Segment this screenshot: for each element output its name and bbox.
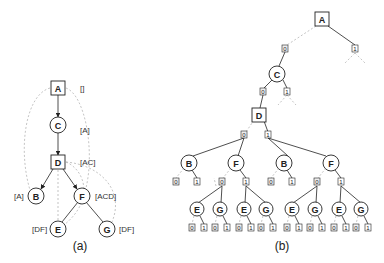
node-c: C <box>50 117 66 133</box>
annotation-f: [ACD] <box>95 192 116 201</box>
bit-1-d: 1 <box>265 131 271 138</box>
svg-text:D: D <box>55 158 62 168</box>
node-b: B <box>28 188 44 204</box>
tree-node-c: C <box>269 66 285 82</box>
bit-1-f2: 1 <box>338 178 344 185</box>
svg-text:F: F <box>79 192 85 202</box>
dashed-edges <box>176 26 365 178</box>
annotation-g: [DF] <box>119 225 134 234</box>
svg-text:G: G <box>262 205 269 215</box>
solid-edges <box>192 26 368 224</box>
bit-0-a: 0 <box>282 45 288 52</box>
svg-text:A: A <box>319 15 326 25</box>
edge-D-F <box>63 169 77 189</box>
svg-text:E: E <box>194 205 200 215</box>
svg-text:B: B <box>33 192 40 202</box>
annotation-e: [DF] <box>32 225 47 234</box>
figure: A [] C [A] D [AC] B [A] F [ACD] E <box>0 0 384 263</box>
svg-text:A: A <box>55 84 62 94</box>
annotation-c: [A] <box>80 126 90 135</box>
annotation-a: [] <box>80 84 84 93</box>
node-d: D <box>51 155 65 169</box>
leaf-bits: 0 1 0 1 0 1 0 1 0 1 0 1 0 1 0 1 <box>189 224 371 231</box>
svg-text:G: G <box>103 225 110 235</box>
svg-text:B: B <box>281 159 288 169</box>
bit-1-f1: 1 <box>243 178 249 185</box>
edge-D-B <box>41 169 53 189</box>
svg-text:E: E <box>289 205 295 215</box>
bit-0-d: 0 <box>241 131 247 138</box>
node-e: E <box>50 221 66 237</box>
tree-node-f-1: F <box>228 155 244 171</box>
caption-b: (b) <box>275 239 290 253</box>
tree-node-g-3: G <box>308 202 322 216</box>
svg-text:B: B <box>186 159 193 169</box>
annotation-d: [AC] <box>80 158 96 167</box>
tree-node-g-2: G <box>259 202 273 216</box>
node-f: F <box>74 188 90 204</box>
svg-text:C: C <box>274 70 281 80</box>
tree-node-b-1: B <box>181 155 197 171</box>
tree-node-g-1: G <box>213 202 227 216</box>
svg-text:G: G <box>216 205 223 215</box>
svg-text:D: D <box>256 111 263 121</box>
bit-1-b1: 1 <box>194 178 200 185</box>
tree-node-e-4: E <box>332 202 346 216</box>
svg-text:C: C <box>55 121 62 131</box>
context-arcs <box>24 88 115 225</box>
edge-F-G <box>86 202 103 222</box>
bit-0-c: 0 <box>260 88 266 95</box>
svg-text:G: G <box>357 205 364 215</box>
tree-node-g-4: G <box>354 202 368 216</box>
tree-node-e-2: E <box>237 202 251 216</box>
tree-node-d: D <box>252 108 266 122</box>
bit-0-b2: 0 <box>268 178 274 185</box>
svg-text:E: E <box>336 205 342 215</box>
svg-text:F: F <box>328 159 334 169</box>
figure-b: A 0 1 C 0 1 D 0 1 B F B F 0 1 0 1 0 1 0 … <box>173 12 371 253</box>
tree-node-a: A <box>315 12 329 26</box>
bit-1-c: 1 <box>284 88 290 95</box>
bit-1-a: 1 <box>352 45 358 52</box>
bit-0-f1: 0 <box>219 178 225 185</box>
caption-a: (a) <box>73 239 88 253</box>
node-a: A <box>51 81 65 95</box>
tree-node-b-2: B <box>276 155 292 171</box>
svg-text:E: E <box>55 225 61 235</box>
svg-text:F: F <box>233 159 239 169</box>
node-g: G <box>99 221 115 237</box>
tree-node-e-1: E <box>190 202 204 216</box>
svg-text:E: E <box>241 205 247 215</box>
edge-F-E <box>62 202 78 222</box>
bit-0-f2: 0 <box>314 178 320 185</box>
tree-node-f-2: F <box>323 155 339 171</box>
tree-node-e-3: E <box>285 202 299 216</box>
bit-0-b1: 0 <box>173 178 179 185</box>
svg-text:G: G <box>311 205 318 215</box>
annotation-b: [A] <box>14 192 24 201</box>
bit-1-b2: 1 <box>289 178 295 185</box>
figure-a: A [] C [A] D [AC] B [A] F [ACD] E <box>14 81 134 253</box>
